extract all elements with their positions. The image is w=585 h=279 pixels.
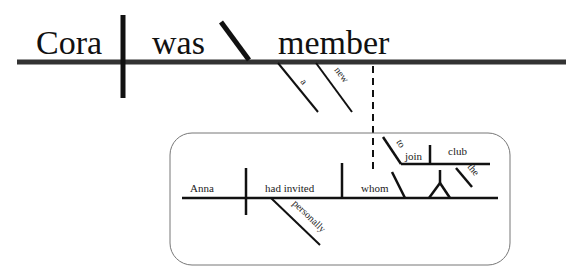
subject-word: Cora — [36, 24, 102, 61]
infinitive-word: join — [404, 150, 423, 162]
clause-subject-word: Anna — [190, 182, 214, 194]
pedestal-left-leg — [429, 183, 440, 198]
modifier-word-a: a — [298, 76, 310, 87]
modifier-word-new: new — [332, 65, 351, 86]
infinitive-marker-word: to — [394, 137, 407, 149]
verb-word: was — [152, 24, 205, 61]
object-complement-slash — [392, 172, 405, 198]
adverb-word: personally — [291, 198, 329, 235]
modifier-line-a — [278, 63, 318, 112]
predicate-noun-word: member — [278, 24, 390, 61]
infinitive-object-word: club — [448, 145, 467, 157]
predicate-slash — [221, 22, 249, 60]
pedestal-right-leg — [440, 183, 450, 198]
clause-verb-word: had invited — [265, 182, 315, 194]
clause-object-word: whom — [361, 182, 389, 194]
sentence-diagram: Cora was member a new Anna had invited w… — [0, 0, 585, 279]
